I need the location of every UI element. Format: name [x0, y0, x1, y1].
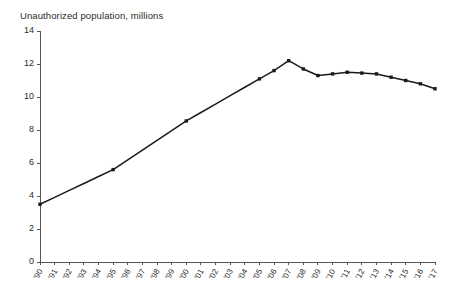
y-axis-tick-label: 12	[24, 58, 34, 68]
data-point-marker	[272, 69, 275, 72]
data-point-marker	[419, 82, 422, 85]
x-axis-tick-label: '95	[105, 267, 118, 281]
x-axis-tick-label: '91	[46, 267, 59, 281]
data-point-marker	[360, 71, 363, 74]
x-axis-tick-label: '15	[397, 267, 410, 281]
data-point-marker	[404, 79, 407, 82]
x-axis-tick-label: '10	[324, 267, 337, 281]
x-axis-tick-label: '98	[149, 267, 162, 281]
data-point-marker	[38, 203, 41, 206]
y-axis-tick-label: 8	[29, 124, 34, 134]
data-point-marker	[346, 71, 349, 74]
x-axis-tick-label: '16	[412, 267, 425, 281]
x-axis-tick-label: '02	[207, 267, 220, 281]
x-axis-tick-label: '09	[310, 267, 323, 281]
y-axis: 02468101214	[24, 25, 40, 266]
data-point-marker	[331, 72, 334, 75]
data-point-marker	[389, 76, 392, 79]
data-point-marker	[111, 168, 114, 171]
y-axis-tick-label: 6	[29, 157, 34, 167]
data-point-marker	[287, 59, 290, 62]
x-axis-tick-label: '04	[237, 267, 250, 281]
y-axis-tick-label: 10	[24, 91, 34, 101]
data-point-marker	[433, 87, 436, 90]
x-axis-tick-label: '96	[119, 267, 132, 281]
x-axis-tick-label: '05	[251, 267, 264, 281]
y-axis-tick-label: 14	[24, 25, 34, 35]
x-axis-tick-label: '99	[163, 267, 176, 281]
x-axis-tick-label: '00	[178, 267, 191, 281]
x-axis: '90'91'92'93'94'95'96'97'98'99'00'01'02'…	[32, 262, 440, 281]
data-point-marker	[302, 67, 305, 70]
x-axis-tick-label: '90	[32, 267, 45, 281]
y-axis-tick-label: 2	[29, 223, 34, 233]
x-axis-tick-label: '11	[339, 267, 352, 280]
x-axis-tick-label: '01	[193, 267, 206, 281]
x-axis-tick-label: '92	[61, 267, 74, 281]
x-axis-tick-label: '93	[76, 267, 89, 281]
x-axis-tick-label: '12	[354, 267, 367, 281]
data-series-unauthorized-population	[38, 59, 436, 206]
x-axis-tick-label: '14	[383, 267, 396, 281]
x-axis-tick-label: '94	[90, 267, 103, 281]
y-axis-tick-label: 4	[29, 190, 34, 200]
x-axis-tick-label: '08	[295, 267, 308, 281]
x-axis-tick-label: '17	[427, 267, 440, 281]
data-point-marker	[316, 74, 319, 77]
y-axis-tick-label: 0	[29, 256, 34, 266]
data-point-marker	[185, 119, 188, 122]
x-axis-tick-label: '03	[222, 267, 235, 281]
data-point-marker	[258, 77, 261, 80]
series-line-path	[40, 61, 435, 205]
x-axis-tick-label: '06	[266, 267, 279, 281]
x-axis-tick-label: '13	[368, 267, 381, 281]
chart-container: Unauthorized population, millions 024681…	[0, 0, 458, 296]
data-point-marker	[375, 72, 378, 75]
x-axis-tick-label: '07	[280, 267, 293, 281]
x-axis-tick-label: '97	[134, 267, 147, 281]
line-chart-plot: 02468101214 '90'91'92'93'94'95'96'97'98'…	[0, 0, 458, 296]
